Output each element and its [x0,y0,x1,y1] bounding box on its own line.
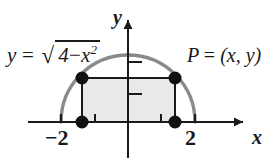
point-name: P [187,44,199,66]
vertex-dot-top-left [76,72,89,85]
y-axis-arrowhead [124,20,133,29]
vertex-dot-top-right-P [169,72,182,85]
radicand-minus: − [69,43,81,67]
radical-group: √4−x2 [39,40,100,68]
math-figure-semicircle-rectangle: y = √4−x2 P = (x, y) −2 2 x y [0,0,279,161]
radicand-lead: 4 [58,43,69,67]
point-label-P: P = (x, y) [187,44,261,67]
radical-sign: √ [41,44,54,67]
equation-lhs: y [7,43,17,67]
radicand-var: x [81,43,91,67]
x-tick-label-2: 2 [185,125,196,151]
radicand: 4−x2 [55,40,100,68]
figure-canvas [0,0,279,161]
x-axis-label: x [252,126,262,149]
vertex-dot-bottom-right [169,116,182,129]
equation-label: y = √4−x2 [7,40,100,68]
equation-equals: = [22,43,34,67]
radicand-exponent: 2 [91,42,98,57]
vertex-dot-bottom-left [76,116,89,129]
x-axis-arrowhead [234,118,243,127]
y-axis-label: y [113,6,122,29]
point-equals: = [204,44,215,66]
point-coords: (x, y) [220,44,261,66]
x-tick-label-neg2: −2 [45,125,69,151]
